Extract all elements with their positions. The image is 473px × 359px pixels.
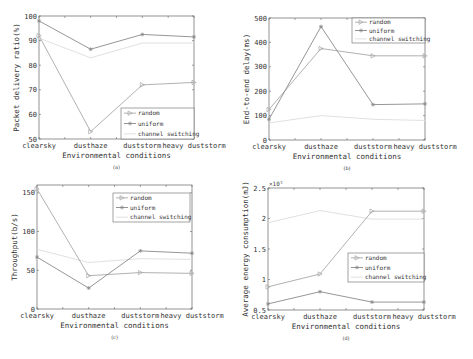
chart-panel-a: 5060708090100clearskydusthazeduststormhe… <box>0 0 240 180</box>
chart-a: 5060708090100clearskydusthazeduststormhe… <box>0 0 240 180</box>
chart-c: 050100150clearskydusthazeduststormheavy … <box>0 180 240 359</box>
marker-star-icon <box>319 25 323 29</box>
legend-label: channel switching <box>365 273 427 281</box>
y-tick-label: 100 <box>254 112 267 120</box>
chart-panel-b: 0100200300400500clearskydusthazeduststor… <box>240 0 473 180</box>
x-tick-label: dusthaze <box>72 312 106 320</box>
legend: randomuniformchannel switching <box>121 108 200 139</box>
y-axis-title: Average energy consumption(mJ) <box>241 181 250 316</box>
legend-label: uniform <box>365 264 391 271</box>
legend: randomuniformchannel switching <box>348 253 427 282</box>
x-tick-label: heavy duststorm <box>162 142 225 150</box>
x-tick-label: clearsky <box>251 313 285 321</box>
subfigure-caption: (c) <box>111 334 118 340</box>
marker-star-icon <box>318 290 322 294</box>
x-axis-title: Environmental conditions <box>60 321 168 330</box>
x-tick-label: dusthaze <box>303 313 337 321</box>
y-axis-title: End-to-end delay(ms) <box>242 34 251 124</box>
marker-star-icon <box>192 35 196 39</box>
y-tick-label: 1.5 <box>253 246 266 254</box>
legend-label: channel switching <box>130 213 192 221</box>
marker-star-icon <box>359 29 363 33</box>
y-tick-label: 500 <box>254 15 267 23</box>
x-tick-label: clearsky <box>20 312 54 320</box>
series-channel-switching <box>269 116 425 123</box>
x-tick-label: duststorm <box>353 313 391 321</box>
x-tick-label: dusthaze <box>304 143 338 151</box>
x-tick-label: duststorm <box>123 142 161 150</box>
y-tick-label: 150 <box>22 189 35 197</box>
marker-star-icon <box>120 206 124 210</box>
marker-star-icon <box>423 102 427 106</box>
legend-label: uniform <box>138 120 164 127</box>
subfigure-caption: (a) <box>113 164 120 170</box>
y-tick-label: 60 <box>29 111 37 119</box>
x-tick-label: dusthaze <box>74 142 108 150</box>
subfigure-caption: (d) <box>342 335 349 341</box>
y-tick-label: 1 <box>262 276 266 284</box>
y-tick-label: 200 <box>254 88 267 96</box>
marker-star-icon <box>138 249 142 253</box>
x-axis-title: Environmental conditions <box>292 322 400 331</box>
legend-label: channel switching <box>138 130 200 138</box>
chart-d: 0.511.522.5clearskydusthazeduststormheav… <box>240 170 473 359</box>
legend: randomuniformchannel switching <box>113 193 192 222</box>
legend-label: uniform <box>369 27 395 34</box>
x-axis-title: Environmental conditions <box>293 152 401 161</box>
chart-panel-c: 050100150clearskydusthazeduststormheavy … <box>0 180 240 359</box>
series-uniform <box>266 290 426 306</box>
y-tick-label: 100 <box>24 13 37 21</box>
marker-star-icon <box>371 103 375 107</box>
legend-label: random <box>365 254 387 261</box>
y-tick-label: 90 <box>29 37 37 45</box>
y-tick-label: 100 <box>22 228 35 236</box>
legend-label: random <box>138 109 160 116</box>
marker-star-icon <box>267 117 271 121</box>
marker-star-icon <box>355 266 359 270</box>
legend-label: random <box>130 194 152 201</box>
legend-label: random <box>369 18 391 25</box>
x-tick-label: clearsky <box>252 143 286 151</box>
marker-star-icon <box>190 251 194 255</box>
y-exponent-label: ×10⁵ <box>269 180 283 187</box>
series-channel-switching <box>39 38 194 58</box>
legend-label: channel switching <box>369 35 431 43</box>
marker-star-icon <box>266 302 270 306</box>
marker-star-icon <box>370 300 374 304</box>
marker-star-icon <box>87 286 91 290</box>
x-axis-title: Environmental conditions <box>62 151 170 160</box>
y-tick-label: 50 <box>27 267 35 275</box>
marker-star-icon <box>89 47 93 51</box>
series-channel-switching <box>268 211 424 223</box>
legend-label: uniform <box>130 204 156 211</box>
marker-star-icon <box>128 122 132 126</box>
x-tick-label: duststorm <box>121 312 159 320</box>
x-tick-label: heavy duststorm <box>392 313 455 321</box>
y-axis-title: Packet delivery ratio(%) <box>12 23 21 131</box>
x-tick-label: heavy duststorm <box>160 312 223 320</box>
y-tick-label: 80 <box>29 62 37 70</box>
y-tick-label: 2 <box>262 215 266 223</box>
marker-star-icon <box>35 255 39 259</box>
y-tick-label: 2.5 <box>253 185 266 193</box>
chart-panel-d: 0.511.522.5clearskydusthazeduststormheav… <box>240 170 473 359</box>
legend: randomuniformchannel switching <box>352 18 431 43</box>
marker-star-icon <box>422 300 426 304</box>
x-tick-label: duststorm <box>354 143 392 151</box>
x-tick-label: clearsky <box>22 142 56 150</box>
chart-b: 0100200300400500clearskydusthazeduststor… <box>240 0 473 180</box>
y-tick-label: 300 <box>254 63 267 71</box>
marker-star-icon <box>37 19 41 23</box>
marker-star-icon <box>140 32 144 36</box>
x-tick-label: heavy duststorm <box>393 143 456 151</box>
plot-area <box>268 188 424 310</box>
y-tick-label: 70 <box>29 86 37 94</box>
series-channel-switching <box>37 249 192 262</box>
y-axis-title: Throughput(b/s) <box>10 213 19 281</box>
series-random <box>267 46 427 111</box>
y-tick-label: 400 <box>254 39 267 47</box>
